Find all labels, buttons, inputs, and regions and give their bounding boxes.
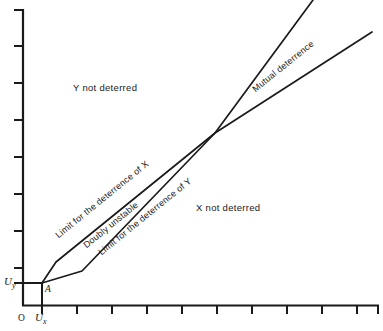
u-x-sub: x xyxy=(43,317,47,326)
u-y-sub: y xyxy=(12,281,16,290)
x-axis-threshold-label: Ux xyxy=(35,312,47,326)
deterrence-diagram-figure: Y not deterred X not deterred Limit for … xyxy=(0,0,383,331)
region-label-x-not-deterred: X not deterred xyxy=(196,203,260,213)
y-axis-ticks xyxy=(14,10,23,283)
x-axis xyxy=(22,305,379,314)
point-label-a: A xyxy=(45,285,51,295)
region-label-y-not-deterred: Y not deterred xyxy=(73,83,137,93)
threshold-box xyxy=(23,283,43,305)
origin-label: O xyxy=(18,314,25,324)
y-axis-threshold-label: Uy xyxy=(4,276,16,290)
plot-canvas xyxy=(0,0,383,331)
u-y-base: U xyxy=(4,275,12,287)
u-x-base: U xyxy=(35,311,43,323)
y-axis xyxy=(14,9,23,306)
